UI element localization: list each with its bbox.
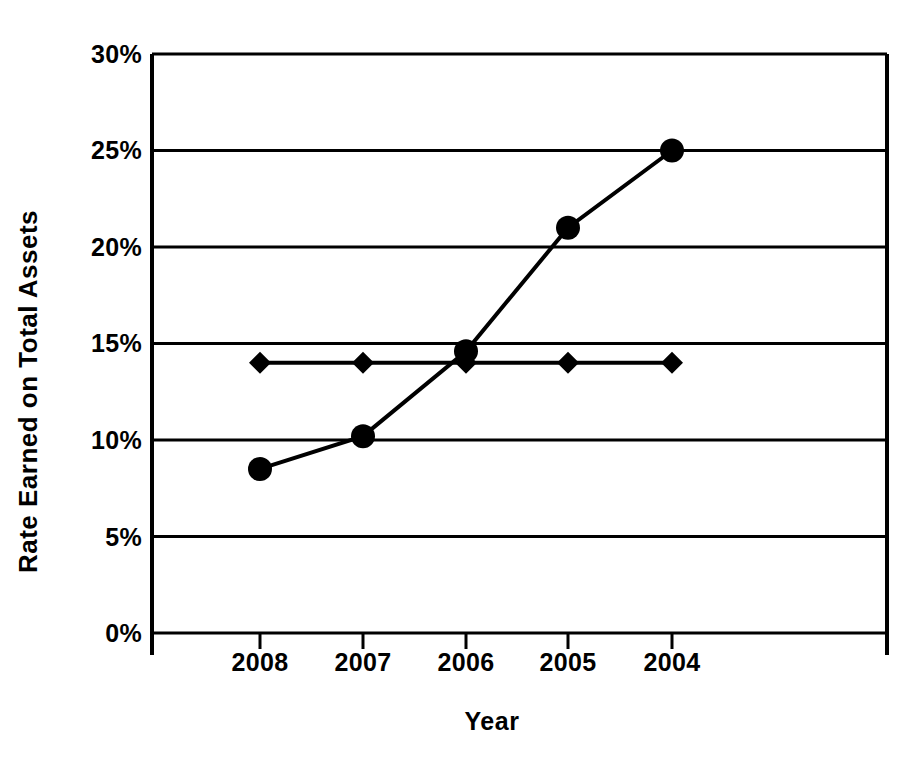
data-series-layer [248, 139, 684, 481]
circle-series-line [260, 151, 672, 469]
data-point-diamond-series-2007 [352, 352, 374, 374]
data-point-diamond-series-2004 [661, 352, 683, 374]
data-point-diamond-series-2005 [557, 352, 579, 374]
data-point-circle-series-2007 [351, 424, 375, 448]
chart-container: Rate Earned on Total Assets 0% 5% 10% 15… [0, 0, 922, 783]
plot-area [0, 0, 922, 783]
x-axis-ticks [260, 633, 672, 649]
data-point-circle-series-2008 [248, 457, 272, 481]
data-point-diamond-series-2008 [249, 352, 271, 374]
gridlines [152, 54, 887, 633]
data-point-circle-series-2004 [660, 139, 684, 163]
data-point-circle-series-2005 [556, 216, 580, 240]
